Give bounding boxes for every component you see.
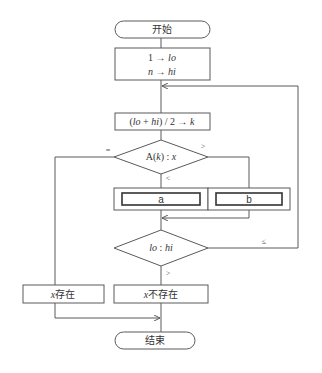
decision-compare-label: A(k) : x	[146, 151, 177, 163]
process-a-label: a	[158, 194, 164, 205]
connector-greater-branch	[208, 157, 249, 188]
found-output: x存在	[23, 285, 104, 303]
branch-greater-label: >	[201, 142, 206, 151]
init-line1: 1 → lo	[148, 52, 176, 63]
connector-found-merge	[55, 303, 160, 318]
process-b-label: b	[246, 194, 252, 205]
branch-gt-label: >	[166, 269, 171, 278]
process-a: a	[114, 188, 208, 210]
compute-k-label: (lo + hi) / 2 → k	[129, 116, 195, 128]
end-terminator: 结束	[115, 332, 195, 349]
process-b: b	[208, 188, 290, 210]
decision-loop-label: lo : hi	[149, 242, 173, 253]
connector-b-merge	[162, 210, 249, 218]
decision-compare: A(k) : x = > <	[106, 140, 208, 183]
init-process: 1 → lo n → hi	[115, 48, 210, 80]
connector-equal-branch	[55, 157, 114, 285]
end-label: 结束	[145, 334, 165, 346]
branch-le-label: ≤	[262, 237, 267, 246]
flowchart-canvas: 开始 1 → lo n → hi (lo + hi) / 2 → k A(k) …	[0, 0, 322, 373]
compute-k-process: (lo + hi) / 2 → k	[115, 113, 210, 130]
branch-equal-label: =	[106, 146, 111, 155]
init-line2: n → hi	[148, 66, 176, 77]
connector-loop-back	[162, 86, 298, 248]
branch-less-label: <	[166, 174, 171, 183]
start-label: 开始	[152, 23, 172, 35]
start-terminator: 开始	[115, 21, 210, 38]
found-label: x存在	[50, 288, 75, 300]
not-found-output: x不存在	[114, 285, 208, 303]
not-found-label: x不存在	[143, 288, 178, 300]
decision-loop: lo : hi ≤ >	[114, 230, 267, 278]
